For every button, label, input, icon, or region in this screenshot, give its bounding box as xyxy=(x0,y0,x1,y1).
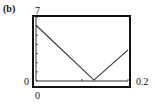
plot-area xyxy=(0,0,155,106)
axes xyxy=(36,17,128,81)
data-line xyxy=(36,25,128,80)
